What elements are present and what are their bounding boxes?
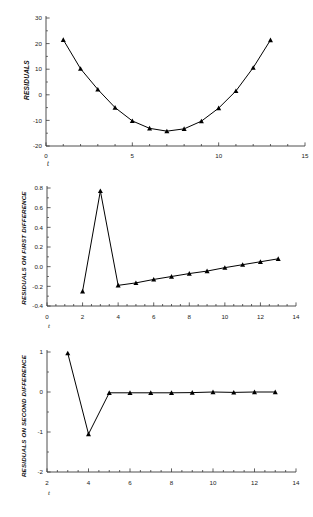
x-tick-label: 12 (251, 479, 258, 486)
y-tick-label: 0 (39, 91, 43, 98)
y-tick-label: -1 (37, 428, 43, 435)
x-tick-label: 10 (215, 152, 222, 159)
y-tick-label: 1 (40, 348, 44, 355)
y-tick-label: 0 (40, 388, 44, 395)
x-tick-label: 6 (152, 313, 156, 320)
y-axis-title: RESIDUALS (23, 60, 30, 100)
x-tick-label: 15 (302, 152, 309, 159)
y-tick-label: 0.8 (34, 184, 43, 191)
x-tick-label: 2 (45, 479, 49, 486)
y-axis-title: RESIDUALS ON FIRST DIFFERENCE (20, 191, 27, 305)
data-point-marker (65, 351, 70, 356)
data-point-marker (98, 188, 103, 193)
chart-panel-first-difference: 02468101214-0.4-0.20.00.20.40.60.8RESIDU… (0, 176, 313, 340)
data-series-line (63, 40, 270, 131)
x-tick-label: 8 (188, 313, 192, 320)
data-point-marker (251, 65, 256, 70)
data-point-marker (80, 289, 85, 294)
data-series-line (83, 191, 279, 291)
x-tick-label: 4 (87, 479, 91, 486)
y-tick-label: 0.2 (34, 243, 43, 250)
plot-area: 2468101214-2-101 (37, 348, 300, 486)
x-axis-title: t (48, 322, 51, 329)
x-tick-label: 10 (210, 479, 217, 486)
x-tick-label: 12 (257, 313, 264, 320)
data-point-marker (268, 38, 273, 43)
y-tick-label: 0.6 (34, 204, 43, 211)
y-tick-label: 0.4 (34, 224, 43, 231)
chart-panel-second-difference: 2468101214-2-101RESIDUALS ON SECOND DIFF… (0, 340, 313, 500)
y-tick-label: 0.0 (34, 263, 43, 270)
x-axis-title: t (48, 489, 51, 496)
y-tick-label: -2 (37, 468, 43, 475)
x-tick-label: 0 (45, 313, 49, 320)
figure-page: 051015-20-100102030RESIDUALSt 0246810121… (0, 0, 313, 517)
x-tick-label: 8 (170, 479, 174, 486)
residuals-first-difference-chart: 02468101214-0.4-0.20.00.20.40.60.8RESIDU… (0, 176, 313, 340)
plot-area: 051015-20-100102030 (33, 14, 309, 159)
data-point-marker (78, 66, 83, 71)
x-tick-label: 14 (293, 313, 300, 320)
x-tick-label: 2 (81, 313, 85, 320)
x-tick-label: 5 (131, 152, 135, 159)
y-tick-label: 30 (35, 14, 42, 21)
residuals-chart: 051015-20-100102030RESIDUALSt (0, 0, 313, 176)
y-tick-label: -0.2 (32, 283, 43, 290)
x-tick-label: 4 (116, 313, 120, 320)
x-tick-label: 14 (293, 479, 300, 486)
y-tick-label: -10 (33, 117, 43, 124)
y-tick-label: -20 (33, 142, 43, 149)
residuals-second-difference-chart: 2468101214-2-101RESIDUALS ON SECOND DIFF… (0, 340, 313, 500)
plot-area: 02468101214-0.4-0.20.00.20.40.60.8 (32, 184, 300, 320)
y-tick-label: -0.4 (32, 302, 43, 309)
data-point-marker (86, 432, 91, 437)
chart-panel-residuals: 051015-20-100102030RESIDUALSt (0, 0, 313, 176)
y-tick-label: 10 (35, 65, 42, 72)
data-point-marker (61, 37, 66, 42)
y-axis-title: RESIDUALS ON SECOND DIFFERENCE (20, 354, 27, 477)
x-tick-label: 10 (221, 313, 228, 320)
x-axis-title: t (47, 160, 50, 168)
y-tick-label: 20 (35, 40, 42, 47)
x-tick-label: 6 (128, 479, 132, 486)
x-tick-label: 0 (44, 152, 48, 159)
